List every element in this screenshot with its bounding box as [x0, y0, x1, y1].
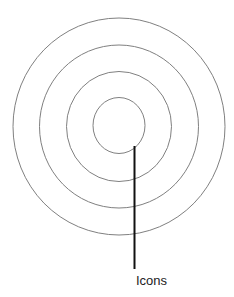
icons-label: Icons — [136, 273, 167, 288]
ring-inner — [93, 98, 145, 154]
rings-group — [13, 18, 225, 235]
ring-third — [67, 72, 172, 182]
ring-outer — [13, 18, 225, 235]
concentric-rings-diagram — [0, 0, 234, 297]
ring-second — [40, 45, 199, 208]
